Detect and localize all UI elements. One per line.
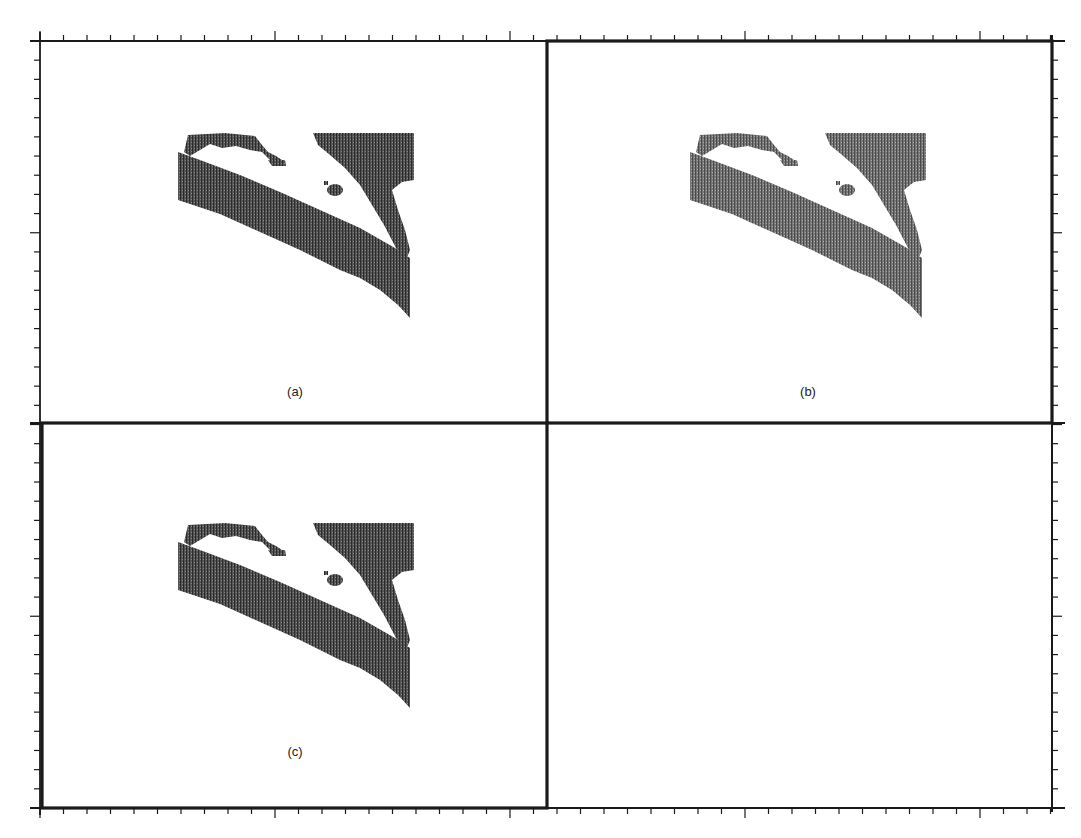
panel-b-label: (b) — [800, 384, 816, 399]
panel-b-image — [690, 133, 926, 318]
panel-a-label: (a) — [287, 384, 303, 399]
figure-canvas — [0, 0, 1081, 838]
panel-c-label: (c) — [287, 744, 302, 759]
panel-a-image — [178, 133, 414, 318]
panel-c-image — [178, 523, 414, 708]
